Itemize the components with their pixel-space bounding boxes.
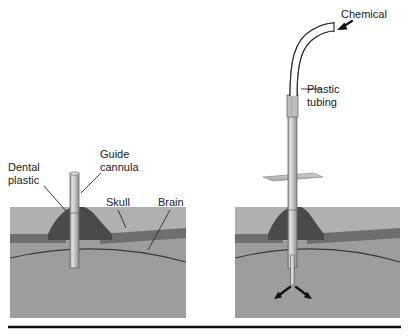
label-plastic-tubing: Plastictubing [307, 83, 339, 108]
brain-layer [10, 236, 186, 318]
injection-cannula-tip [291, 255, 295, 285]
label-chemical: Chemical [341, 8, 387, 21]
label-brain: Brain [158, 196, 184, 209]
guide-cannula-opening [70, 172, 79, 175]
label-guide-cannula: Guidecannula [100, 148, 139, 173]
panel-right [235, 21, 400, 318]
chemical-arrow [337, 21, 352, 30]
microinjection-diagram [0, 0, 409, 336]
label-skull: Skull [106, 196, 130, 209]
leader-guide-cannula [81, 173, 101, 193]
tubing-connector-sleeve [287, 95, 298, 117]
guide-cannula-upper-right [288, 110, 297, 210]
panel-left [10, 172, 186, 318]
label-dental-plastic: Dentalplastic [8, 161, 40, 186]
brain-layer-right [235, 236, 400, 318]
guide-cannula-top [70, 173, 79, 213]
